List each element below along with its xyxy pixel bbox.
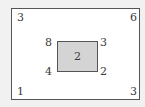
inner-bottom-left-label: 4	[45, 66, 52, 77]
diagram-canvas: 3 6 1 3 8 3 4 2 2	[0, 0, 145, 107]
outer-top-left-label: 3	[17, 12, 24, 23]
inner-center-label: 2	[74, 51, 81, 62]
outer-top-right-label: 6	[130, 12, 137, 23]
outer-bottom-right-label: 3	[130, 86, 137, 97]
inner-top-right-label: 3	[100, 37, 107, 48]
inner-bottom-right-label: 2	[100, 66, 107, 77]
inner-top-left-label: 8	[45, 37, 52, 48]
outer-bottom-left-label: 1	[17, 86, 24, 97]
